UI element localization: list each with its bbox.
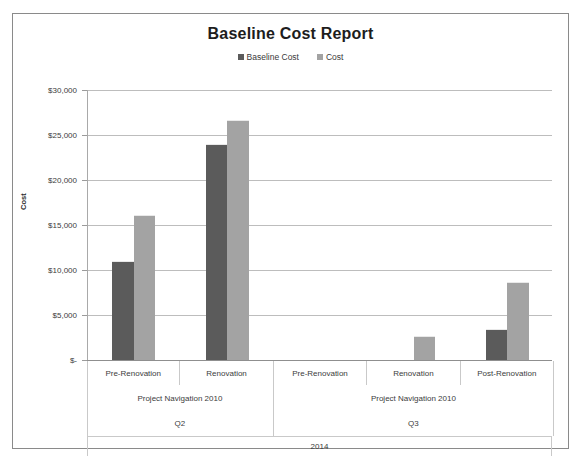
- category-label: Renovation: [367, 361, 460, 385]
- y-axis-tick-label: $10,000: [21, 266, 77, 275]
- bar-group: [87, 90, 180, 360]
- bar-group: [180, 90, 273, 360]
- y-axis-tick-label: $30,000: [21, 86, 77, 95]
- category-label: Pre-Renovation: [87, 361, 180, 385]
- group-label-row: Project Navigation 2010Project Navigatio…: [87, 385, 552, 411]
- group-label: Project Navigation 2010: [274, 385, 554, 411]
- year-label: 2014: [87, 436, 552, 456]
- bar-group: [274, 90, 367, 360]
- category-label: Post-Renovation: [461, 361, 554, 385]
- category-axis-table: Pre-RenovationRenovationPre-RenovationRe…: [87, 361, 552, 436]
- table-left-border: [87, 361, 88, 436]
- group-label: Project Navigation 2010: [87, 385, 274, 411]
- y-axis-title: Cost: [19, 193, 28, 210]
- quarter-label: Q3: [274, 411, 554, 436]
- y-axis-tick-label: $5,000: [21, 311, 77, 320]
- bar-cost[interactable]: [414, 336, 435, 360]
- bar-group: [367, 90, 460, 360]
- bar-cost[interactable]: [134, 215, 155, 360]
- y-axis-tick-label: $25,000: [21, 131, 77, 140]
- y-axis-tick-label: $-: [21, 356, 77, 365]
- category-label-row: Pre-RenovationRenovationPre-RenovationRe…: [87, 361, 552, 385]
- y-axis-tick-label: $15,000: [21, 221, 77, 230]
- bar-baseline-cost[interactable]: [486, 329, 507, 360]
- quarter-label-row: Q2Q3: [87, 411, 552, 436]
- bars-layer: [87, 90, 552, 360]
- bar-cost[interactable]: [507, 282, 528, 360]
- category-label: Pre-Renovation: [274, 361, 367, 385]
- bar-baseline-cost[interactable]: [112, 261, 133, 360]
- quarter-label: Q2: [87, 411, 274, 436]
- category-label: Renovation: [180, 361, 273, 385]
- bar-cost[interactable]: [227, 120, 248, 360]
- chart-container: Baseline Cost Report Baseline Cost Cost …: [12, 13, 569, 449]
- bar-group: [461, 90, 554, 360]
- y-axis-tick-label: $20,000: [21, 176, 77, 185]
- bar-baseline-cost[interactable]: [206, 144, 227, 360]
